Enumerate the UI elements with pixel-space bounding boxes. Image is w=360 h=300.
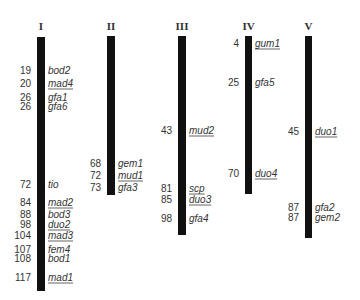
locus-position: 117 bbox=[1, 272, 31, 283]
locus-gene: mad1 bbox=[48, 272, 73, 283]
chromosome-label: II bbox=[107, 20, 116, 32]
locus-position: 81 bbox=[142, 183, 172, 194]
chromosome-bar bbox=[178, 36, 186, 235]
chromosome-label: III bbox=[176, 20, 189, 32]
locus-position: 26 bbox=[1, 101, 31, 112]
locus-gene: gum1 bbox=[255, 38, 280, 49]
locus-position: 104 bbox=[1, 230, 31, 241]
locus-gene: bod2 bbox=[48, 65, 70, 76]
locus-gene: gfa3 bbox=[118, 182, 137, 193]
linkage-map-diagram: I19bod220mad426gfa126gfa672tio84mad288bo… bbox=[0, 0, 360, 300]
locus-gene: gfa5 bbox=[255, 77, 274, 88]
chromosome-bar bbox=[37, 37, 45, 291]
chromosome-bar bbox=[107, 36, 115, 195]
locus-gene: mad4 bbox=[48, 78, 73, 89]
locus-gene: gem1 bbox=[118, 158, 143, 169]
locus-gene: duo4 bbox=[255, 168, 277, 179]
locus-gene: duo1 bbox=[315, 126, 337, 137]
locus-position: 87 bbox=[269, 212, 299, 223]
locus-position: 4 bbox=[209, 38, 239, 49]
chromosome-label: I bbox=[39, 20, 43, 32]
locus-position: 19 bbox=[1, 65, 31, 76]
locus-position: 85 bbox=[142, 194, 172, 205]
locus-gene: duo3 bbox=[189, 194, 211, 205]
chromosome-label: V bbox=[305, 20, 313, 32]
locus-position: 84 bbox=[1, 197, 31, 208]
locus-position: 68 bbox=[71, 158, 101, 169]
chromosome-label: IV bbox=[242, 20, 254, 32]
locus-position: 73 bbox=[71, 182, 101, 193]
locus-gene: mad2 bbox=[48, 197, 73, 208]
locus-gene: gfa6 bbox=[48, 101, 67, 112]
locus-position: 98 bbox=[1, 219, 31, 230]
locus-gene: bod1 bbox=[48, 253, 70, 264]
locus-gene: duo2 bbox=[48, 219, 70, 230]
locus-position: 72 bbox=[1, 179, 31, 190]
locus-position: 70 bbox=[209, 168, 239, 179]
locus-gene: tio bbox=[48, 179, 59, 190]
locus-position: 108 bbox=[1, 253, 31, 264]
locus-position: 45 bbox=[269, 126, 299, 137]
locus-position: 98 bbox=[142, 213, 172, 224]
locus-gene: mud1 bbox=[118, 170, 143, 181]
locus-gene: gem2 bbox=[315, 212, 340, 223]
locus-gene: gfa4 bbox=[189, 213, 208, 224]
locus-position: 20 bbox=[1, 78, 31, 89]
locus-position: 43 bbox=[142, 125, 172, 136]
chromosome-bar bbox=[305, 36, 312, 238]
locus-position: 72 bbox=[71, 170, 101, 181]
locus-gene: mud2 bbox=[189, 125, 214, 136]
locus-gene: mad3 bbox=[48, 230, 73, 241]
chromosome-bar bbox=[245, 36, 252, 194]
locus-gene: scp bbox=[189, 183, 205, 194]
locus-position: 25 bbox=[209, 77, 239, 88]
